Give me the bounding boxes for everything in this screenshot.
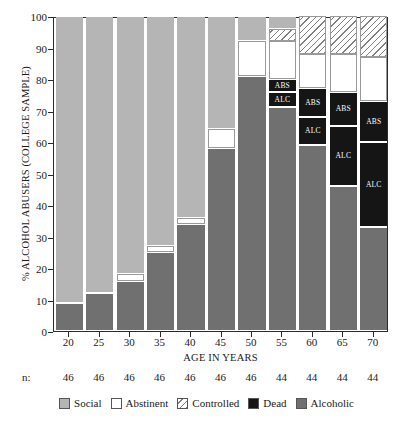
- segment-label: ALC: [305, 127, 321, 135]
- bar-segment-40-alcoholic[interactable]: [177, 224, 204, 331]
- legend-label-social: Social: [74, 398, 102, 409]
- bar-65[interactable]: ALCABS: [330, 18, 357, 331]
- bar-segment-30-abstinent[interactable]: [117, 274, 144, 280]
- legend-swatch-abstinent: [111, 398, 122, 409]
- bar-segment-20-alcoholic[interactable]: [56, 303, 83, 331]
- segment-label: ABS: [336, 105, 351, 113]
- bar-segment-50-social[interactable]: [238, 16, 265, 41]
- legend-swatch-social: [59, 398, 70, 409]
- bar-segment-45-abstinent[interactable]: [208, 129, 235, 148]
- x-tick-mark-25: [99, 332, 100, 337]
- bar-segment-40-abstinent[interactable]: [177, 218, 204, 224]
- segment-label: ABS: [366, 118, 381, 126]
- bar-20[interactable]: [56, 18, 83, 331]
- legend-label-controlled: Controlled: [192, 398, 239, 409]
- legend-item-controlled[interactable]: Controlled: [177, 398, 239, 409]
- bar-segment-35-social[interactable]: [147, 16, 174, 246]
- sample-size-label: n:: [22, 371, 31, 383]
- legend: SocialAbstinentControlledDeadAlcoholic: [0, 398, 413, 409]
- y-tick-label-60: 60: [7, 138, 47, 149]
- bar-50[interactable]: [238, 18, 265, 331]
- bar-segment-65-abstinent[interactable]: [330, 54, 357, 92]
- bar-segment-60-dead-abs[interactable]: ABS: [299, 88, 326, 116]
- y-tick-label-30: 30: [7, 232, 47, 243]
- y-tick-mark-0: [48, 332, 53, 333]
- bar-segment-35-alcoholic[interactable]: [147, 252, 174, 331]
- bar-60[interactable]: ALCABS: [299, 18, 326, 331]
- bar-segment-30-social[interactable]: [117, 16, 144, 274]
- bar-segment-55-dead-abs[interactable]: ABS: [269, 79, 296, 92]
- bar-segment-45-alcoholic[interactable]: [208, 148, 235, 331]
- legend-swatch-alcoholic: [296, 398, 307, 409]
- bar-segment-65-controlled[interactable]: [330, 16, 357, 54]
- bar-segment-70-alcoholic[interactable]: [360, 227, 387, 331]
- bar-25[interactable]: [86, 18, 113, 331]
- legend-label-dead: Dead: [263, 398, 286, 409]
- bar-70[interactable]: ALCABS: [360, 18, 387, 331]
- plot-area: ALCABSALCABSALCABSALCABS: [53, 17, 388, 332]
- bar-segment-60-controlled[interactable]: [299, 16, 326, 54]
- x-tick-mark-70: [373, 332, 374, 337]
- bar-segment-70-dead-alc[interactable]: ALC: [360, 142, 387, 227]
- bar-segment-60-alcoholic[interactable]: [299, 145, 326, 331]
- x-tick-mark-40: [190, 332, 191, 337]
- bar-45[interactable]: [208, 18, 235, 331]
- sample-size-70: 44: [353, 371, 393, 383]
- bar-segment-45-social[interactable]: [208, 16, 235, 129]
- bar-segment-65-dead-alc[interactable]: ALC: [330, 126, 357, 186]
- y-tick-label-70: 70: [7, 106, 47, 117]
- bar-segment-65-dead-abs[interactable]: ABS: [330, 92, 357, 127]
- x-tick-mark-30: [129, 332, 130, 337]
- bar-segment-35-abstinent[interactable]: [147, 246, 174, 252]
- x-tick-mark-50: [251, 332, 252, 337]
- x-axis-title: AGE IN YEARS: [53, 352, 388, 363]
- bar-35[interactable]: [147, 18, 174, 331]
- segment-label: ABS: [275, 82, 290, 90]
- y-tick-label-40: 40: [7, 201, 47, 212]
- x-tick-mark-60: [312, 332, 313, 337]
- y-tick-label-50: 50: [7, 169, 47, 180]
- bar-segment-70-dead-abs[interactable]: ABS: [360, 101, 387, 142]
- bar-40[interactable]: [177, 18, 204, 331]
- legend-label-abstinent: Abstinent: [126, 398, 169, 409]
- legend-item-abstinent[interactable]: Abstinent: [111, 398, 169, 409]
- y-tick-label-80: 80: [7, 75, 47, 86]
- bar-segment-25-social[interactable]: [86, 16, 113, 293]
- y-tick-label-90: 90: [7, 43, 47, 54]
- bar-segment-60-abstinent[interactable]: [299, 54, 326, 89]
- bar-segment-50-alcoholic[interactable]: [238, 76, 265, 331]
- x-tick-mark-65: [342, 332, 343, 337]
- legend-item-social[interactable]: Social: [59, 398, 102, 409]
- bar-segment-60-dead-alc[interactable]: ALC: [299, 117, 326, 145]
- legend-swatch-controlled: [177, 398, 188, 409]
- x-tick-mark-20: [68, 332, 69, 337]
- bar-segment-55-controlled[interactable]: [269, 29, 296, 42]
- bar-segment-55-abstinent[interactable]: [269, 41, 296, 79]
- y-tick-label-100: 100: [7, 12, 47, 23]
- y-tick-label-20: 20: [7, 264, 47, 275]
- bar-segment-70-controlled[interactable]: [360, 16, 387, 57]
- bar-segment-50-abstinent[interactable]: [238, 41, 265, 76]
- bar-segment-20-social[interactable]: [56, 16, 83, 303]
- bar-segment-65-alcoholic[interactable]: [330, 186, 357, 331]
- bar-segment-25-alcoholic[interactable]: [86, 293, 113, 331]
- bar-segment-70-abstinent[interactable]: [360, 57, 387, 101]
- legend-label-alcoholic: Alcoholic: [311, 398, 354, 409]
- bar-segment-55-dead-alc[interactable]: ALC: [269, 92, 296, 108]
- y-tick-label-10: 10: [7, 295, 47, 306]
- stacked-bar-chart: % ALCOHOL ABUSERS (COLLEGE SAMPLE) 01020…: [0, 0, 413, 426]
- bar-segment-30-alcoholic[interactable]: [117, 281, 144, 331]
- x-tick-mark-55: [281, 332, 282, 337]
- bar-segment-55-alcoholic[interactable]: [269, 107, 296, 331]
- bar-30[interactable]: [117, 18, 144, 331]
- bars-layer: ALCABSALCABSALCABSALCABS: [54, 18, 387, 331]
- segment-label: ALC: [336, 152, 352, 160]
- legend-item-dead[interactable]: Dead: [248, 398, 286, 409]
- legend-swatch-dead: [248, 398, 259, 409]
- x-tick-label-70: 70: [353, 336, 393, 348]
- bar-55[interactable]: ALCABS: [269, 18, 296, 331]
- legend-item-alcoholic[interactable]: Alcoholic: [296, 398, 354, 409]
- segment-label: ALC: [275, 96, 291, 104]
- bar-segment-40-social[interactable]: [177, 16, 204, 218]
- bar-segment-55-social[interactable]: [269, 16, 296, 29]
